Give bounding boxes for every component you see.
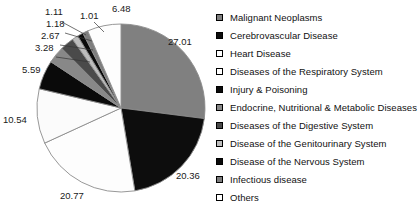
chart-legend: Malignant NeoplasmsCerebrovascular Disea… (216, 8, 412, 206)
pie-plot-area: 27.0120.3620.7710.545.593.282.671.181.11… (0, 0, 212, 211)
legend-item-label: Diseases of the Digestive System (230, 120, 373, 131)
legend-item[interactable]: Disease of the Nervous System (216, 152, 412, 170)
legend-swatch-icon (216, 194, 223, 201)
pie-slice (121, 24, 205, 119)
legend-swatch-icon (216, 158, 223, 165)
legend-item[interactable]: Heart Disease (216, 44, 412, 62)
legend-item[interactable]: Endocrine, Nutritional & Metabolic Disea… (216, 98, 412, 116)
legend-item[interactable]: Diseases of the Respiratory System (216, 62, 412, 80)
legend-item[interactable]: Cerebrovascular Disease (216, 26, 412, 44)
legend-item[interactable]: Infectious disease (216, 170, 412, 188)
legend-item[interactable]: Others (216, 188, 412, 206)
slice-value-label: 10.54 (3, 114, 27, 125)
legend-item-label: Infectious disease (230, 174, 307, 185)
legend-item-label: Diseases of the Respiratory System (230, 66, 383, 77)
slice-value-label: 1.11 (45, 6, 63, 17)
legend-swatch-icon (216, 32, 223, 39)
slice-value-label: 20.77 (60, 190, 84, 201)
slice-value-label: 5.59 (22, 64, 41, 75)
legend-item-label: Malignant Neoplasms (230, 12, 322, 23)
legend-swatch-icon (216, 104, 223, 111)
legend-swatch-icon (216, 14, 223, 21)
slice-value-label: 6.48 (112, 3, 131, 14)
legend-item-label: Cerebrovascular Disease (230, 30, 338, 41)
legend-swatch-icon (216, 122, 223, 129)
pie-slice-group (37, 24, 205, 192)
slice-value-label: 20.36 (176, 170, 200, 181)
legend-swatch-icon (216, 176, 223, 183)
slice-value-label: 1.18 (46, 18, 65, 29)
slice-value-label: 2.67 (41, 30, 60, 41)
legend-swatch-icon (216, 50, 223, 57)
legend-item[interactable]: Injury & Poisoning (216, 80, 412, 98)
legend-swatch-icon (216, 140, 223, 147)
legend-item-label: Injury & Poisoning (230, 84, 307, 95)
legend-item-label: Heart Disease (230, 48, 291, 59)
legend-swatch-icon (216, 86, 223, 93)
legend-item-label: Endocrine, Nutritional & Metabolic Disea… (230, 102, 417, 113)
legend-item[interactable]: Malignant Neoplasms (216, 8, 412, 26)
legend-item-label: Disease of the Nervous System (230, 156, 365, 167)
legend-item[interactable]: Diseases of the Digestive System (216, 116, 412, 134)
slice-value-label: 27.01 (168, 36, 192, 47)
legend-item-label: Others (230, 192, 259, 203)
legend-item[interactable]: Disease of the Genitourinary System (216, 134, 412, 152)
slice-value-label: 1.01 (80, 10, 99, 21)
legend-item-label: Disease of the Genitourinary System (230, 138, 386, 149)
legend-swatch-icon (216, 68, 223, 75)
slice-value-label: 3.28 (35, 42, 54, 53)
